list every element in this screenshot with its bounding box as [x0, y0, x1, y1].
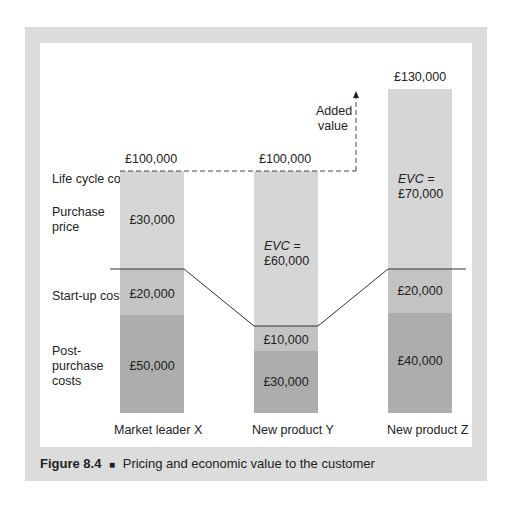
- figure-caption: Figure 8.4 ■ Pricing and economic value …: [40, 456, 375, 471]
- figure-title: Pricing and economic value to the custom…: [123, 456, 375, 471]
- caption-separator-icon: ■: [109, 459, 115, 470]
- figure-number: Figure 8.4: [40, 456, 101, 471]
- connector-lines: [0, 0, 510, 530]
- price-line-x-to-y: [184, 269, 254, 326]
- arrow-up-icon: [353, 91, 359, 98]
- price-line-y-to-z: [318, 269, 388, 326]
